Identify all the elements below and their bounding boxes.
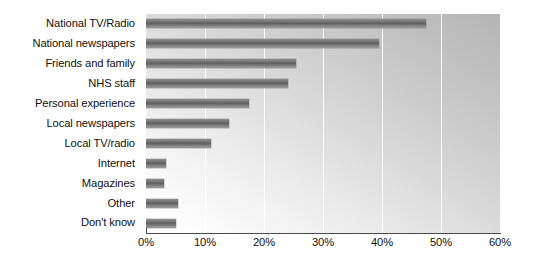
category-label: Local TV/radio bbox=[0, 133, 141, 153]
bar-row bbox=[146, 94, 500, 114]
bar bbox=[146, 59, 296, 68]
category-label: NHS staff bbox=[0, 74, 141, 94]
bar bbox=[146, 219, 176, 228]
value-axis-line bbox=[146, 233, 501, 234]
bar-row bbox=[146, 193, 500, 213]
bar-row bbox=[146, 34, 500, 54]
bar-row bbox=[146, 114, 500, 134]
value-tick-label: 40% bbox=[371, 236, 393, 248]
category-label: Don't know bbox=[0, 213, 141, 233]
bar-row bbox=[146, 173, 500, 193]
category-label: National newspapers bbox=[0, 34, 141, 54]
bar bbox=[146, 199, 178, 208]
category-axis: National TV/Radio National newspapers Fr… bbox=[0, 14, 141, 233]
bar-row bbox=[146, 153, 500, 173]
bar bbox=[146, 119, 229, 128]
bar bbox=[146, 179, 164, 188]
category-label: Personal experience bbox=[0, 94, 141, 114]
category-label: Local newspapers bbox=[0, 114, 141, 134]
bar-row bbox=[146, 14, 500, 34]
bar bbox=[146, 139, 211, 148]
value-tick-label: 60% bbox=[489, 236, 511, 248]
bar bbox=[146, 19, 426, 28]
bar-row bbox=[146, 133, 500, 153]
value-tick-label: 50% bbox=[430, 236, 452, 248]
value-axis-ticks: 0%10%20%30%40%50%60% bbox=[0, 236, 535, 256]
category-label: National TV/Radio bbox=[0, 14, 141, 34]
bar-series bbox=[146, 14, 500, 233]
plot-area bbox=[146, 14, 500, 233]
category-label: Friends and family bbox=[0, 54, 141, 74]
category-label: Internet bbox=[0, 153, 141, 173]
bar bbox=[146, 99, 249, 108]
category-label: Other bbox=[0, 193, 141, 213]
value-tick-label: 10% bbox=[194, 236, 216, 248]
bar-row bbox=[146, 213, 500, 233]
value-tick-label: 30% bbox=[312, 236, 334, 248]
bar-row bbox=[146, 74, 500, 94]
value-tick-label: 20% bbox=[253, 236, 275, 248]
bar bbox=[146, 39, 379, 48]
category-label: Magazines bbox=[0, 173, 141, 193]
bar-row bbox=[146, 54, 500, 74]
value-tick-label: 0% bbox=[138, 236, 154, 248]
bar bbox=[146, 79, 288, 88]
bar bbox=[146, 159, 166, 168]
bar-chart: National TV/Radio National newspapers Fr… bbox=[0, 0, 535, 266]
